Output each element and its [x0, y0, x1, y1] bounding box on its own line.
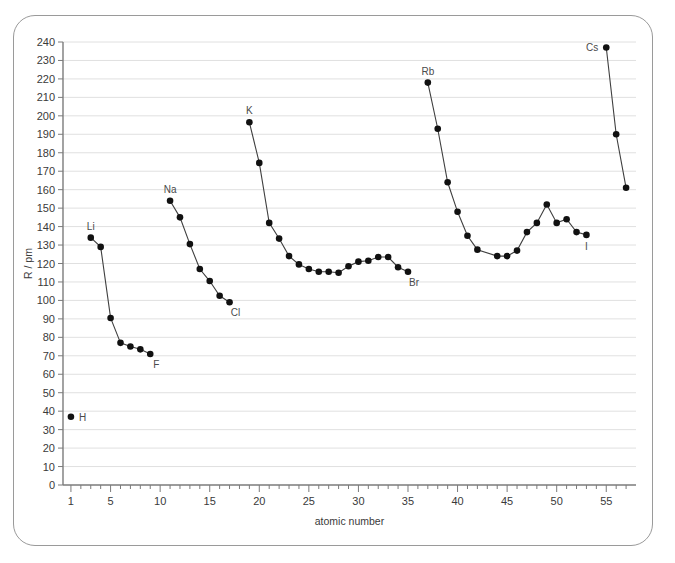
data-point [197, 266, 204, 273]
x-tick-label: 45 [501, 495, 513, 507]
data-point [187, 241, 194, 248]
data-point [494, 253, 501, 260]
data-point [226, 299, 233, 306]
point-label-Rb: Rb [421, 66, 434, 77]
data-point [206, 278, 213, 285]
y-tick-label: 10 [43, 461, 55, 473]
x-tick-label: 40 [451, 495, 463, 507]
x-tick-label: 15 [204, 495, 216, 507]
data-point [405, 269, 412, 276]
x-tick-label: 5 [108, 495, 114, 507]
x-tick-label: 50 [551, 495, 563, 507]
data-point [454, 209, 461, 216]
y-tick-label: 140 [37, 221, 55, 233]
y-tick-label: 160 [37, 184, 55, 196]
data-point [355, 258, 362, 265]
y-tick-label: 70 [43, 350, 55, 362]
x-tick-label: 25 [303, 495, 315, 507]
x-axis-title: atomic number [315, 515, 385, 527]
data-point [514, 247, 521, 254]
point-label-Cl: Cl [231, 307, 240, 318]
data-point [603, 44, 610, 51]
data-point [137, 346, 144, 353]
y-axis-title: R / pm [22, 248, 34, 279]
data-point [315, 269, 322, 276]
data-point [563, 216, 570, 223]
series-line-period-6 [606, 48, 626, 188]
data-point [504, 253, 511, 260]
point-label-Br: Br [409, 277, 420, 288]
x-tick-label: 35 [402, 495, 414, 507]
data-point [365, 257, 372, 264]
data-point [177, 214, 184, 221]
data-point [256, 160, 263, 167]
point-label-I: I [585, 241, 588, 252]
data-point [573, 229, 580, 236]
data-point [553, 220, 560, 227]
x-tick-label: 30 [352, 495, 364, 507]
data-point [266, 220, 273, 227]
point-label-Cs: Cs [586, 42, 598, 53]
data-point [395, 264, 402, 271]
y-tick-label: 50 [43, 387, 55, 399]
y-tick-label: 130 [37, 239, 55, 251]
data-point [434, 125, 441, 132]
y-tick-label: 0 [49, 479, 55, 491]
periodic-radius-chart: 0102030405060708090100110120130140150160… [14, 16, 654, 547]
data-point [296, 261, 303, 268]
data-point [375, 254, 382, 261]
data-point [68, 413, 75, 420]
y-tick-label: 150 [37, 202, 55, 214]
y-tick-label: 230 [37, 54, 55, 66]
data-point [167, 197, 174, 204]
data-point [623, 185, 630, 192]
data-point [444, 179, 451, 186]
y-tick-label: 20 [43, 442, 55, 454]
x-tick-label: 55 [600, 495, 612, 507]
y-tick-label: 170 [37, 165, 55, 177]
y-tick-label: 100 [37, 294, 55, 306]
y-tick-label: 120 [37, 258, 55, 270]
y-tick-label: 210 [37, 91, 55, 103]
y-tick-label: 90 [43, 313, 55, 325]
data-point [524, 229, 531, 236]
y-tick-label: 60 [43, 368, 55, 380]
y-tick-label: 30 [43, 424, 55, 436]
data-point [534, 220, 541, 227]
data-point [107, 315, 114, 322]
y-tick-label: 180 [37, 147, 55, 159]
data-point [87, 234, 94, 241]
data-point [276, 235, 283, 242]
x-tick-label: 20 [253, 495, 265, 507]
data-point [306, 266, 313, 273]
data-point [127, 343, 134, 350]
y-tick-label: 200 [37, 110, 55, 122]
data-point [147, 351, 154, 358]
data-point [613, 131, 620, 138]
data-point [246, 119, 253, 126]
x-tick-label: 1 [68, 495, 74, 507]
data-point [464, 233, 471, 240]
data-point [474, 246, 481, 253]
point-label-H: H [79, 412, 86, 423]
point-label-K: K [246, 105, 253, 116]
data-point [117, 340, 124, 347]
data-point [97, 244, 104, 251]
data-point [286, 253, 293, 260]
point-label-F: F [153, 359, 159, 370]
y-tick-label: 40 [43, 405, 55, 417]
data-point [345, 263, 352, 270]
data-point [543, 201, 550, 208]
data-point [583, 232, 590, 239]
point-label-Na: Na [164, 184, 177, 195]
series-line-period-5 [428, 83, 587, 257]
y-tick-label: 190 [37, 128, 55, 140]
data-point [325, 269, 332, 276]
data-point [425, 79, 432, 86]
figure-frame: 0102030405060708090100110120130140150160… [13, 15, 653, 546]
chart-page: 0102030405060708090100110120130140150160… [0, 0, 675, 563]
data-point [335, 269, 342, 276]
point-label-Li: Li [87, 221, 95, 232]
data-point [216, 293, 223, 300]
y-tick-label: 80 [43, 331, 55, 343]
